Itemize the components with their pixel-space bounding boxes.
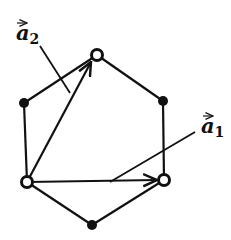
svg-text:a1: a1 xyxy=(201,113,224,140)
edge xyxy=(92,180,164,225)
vertex-filled-bottom xyxy=(87,220,97,230)
hexagonal-lattice-diagram: a2 a1 xyxy=(0,0,231,240)
a1-subscript: 1 xyxy=(215,124,225,140)
vertex-open-left xyxy=(22,177,33,188)
hexagon-edges xyxy=(24,55,164,225)
edge xyxy=(27,182,92,225)
vertex-open-top xyxy=(92,50,103,61)
edge xyxy=(97,55,163,101)
vertex-filled-top-left xyxy=(19,98,29,108)
a2-symbol: a xyxy=(16,20,30,45)
label-a2: a2 xyxy=(16,20,39,47)
edge xyxy=(163,101,164,180)
a2-subscript: 2 xyxy=(30,31,40,47)
svg-text:a2: a2 xyxy=(16,20,39,47)
label-a1: a1 xyxy=(201,113,224,140)
a1-leader-line xyxy=(110,132,195,182)
vertex-open-right xyxy=(159,175,170,186)
vertex-filled-top-right xyxy=(158,96,168,106)
edge xyxy=(24,103,27,182)
a2-leader-line xyxy=(40,46,70,93)
a1-symbol: a xyxy=(201,113,215,138)
vector-a1-arrow xyxy=(27,180,157,182)
